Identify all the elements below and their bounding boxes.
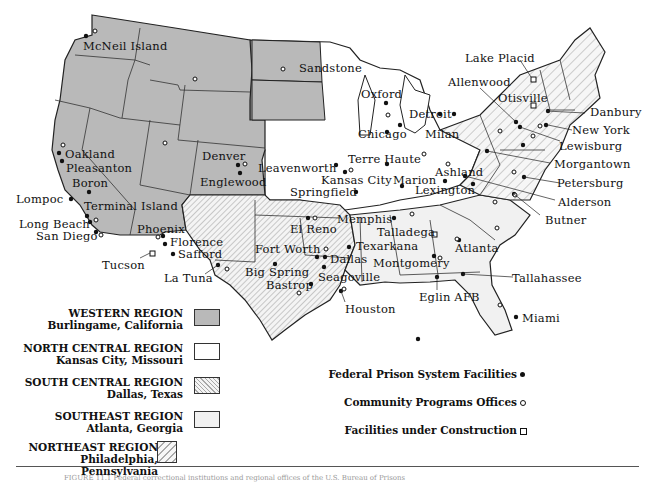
legend-community-programs: Community Programs Offices	[344, 396, 517, 408]
label-new-york: New York	[572, 124, 630, 136]
legend-under-construction: Facilities under Construction	[345, 424, 517, 436]
label-lake-placid: Lake Placid	[465, 52, 535, 64]
label-detroit: Detroit	[409, 108, 452, 120]
swatch-southeast	[194, 411, 220, 428]
label-otisville: Otisville	[498, 92, 548, 104]
figure-caption: FIGURE 11.1 Federal correctional institu…	[64, 474, 405, 482]
swatch-north-central	[194, 343, 220, 360]
legend-southeast-region: SOUTHEAST REGION Atlanta, Georgia	[55, 410, 183, 434]
label-tucson: Tucson	[102, 259, 145, 271]
label-englewood: Englewood	[200, 176, 267, 188]
label-eglin-afb: Eglin AFB	[419, 291, 480, 303]
label-oakland: Oakland	[65, 148, 115, 160]
label-fort-worth: Fort Worth	[255, 243, 321, 255]
label-montgomery: Montgomery	[373, 257, 450, 269]
label-houston: Houston	[345, 303, 396, 315]
swatch-south-central	[194, 377, 220, 394]
label-el-reno: El Reno	[290, 223, 337, 235]
label-atlanta: Atlanta	[455, 242, 499, 254]
label-seagoville: Seagoville	[318, 271, 380, 283]
label-chicago: Chicago	[358, 128, 407, 140]
label-butner: Butner	[545, 214, 586, 226]
open-circle-icon	[520, 400, 526, 406]
label-la-tuna: La Tuna	[164, 272, 213, 284]
label-lompoc: Lompoc	[16, 193, 63, 205]
swatch-western	[194, 309, 220, 326]
label-big-spring: Big Spring	[245, 266, 309, 278]
label-dallas: Dallas	[330, 253, 367, 265]
legend-south-central-region: SOUTH CENTRAL REGION Dallas, Texas	[25, 376, 183, 400]
label-danbury: Danbury	[590, 106, 642, 118]
legend-federal-facilities: Federal Prison System Facilities	[328, 368, 517, 380]
open-square-icon	[520, 428, 527, 435]
label-oxford: Oxford	[361, 88, 402, 100]
label-terre-haute: Terre Haute	[348, 153, 421, 165]
label-lexington: Lexington	[415, 184, 475, 196]
label-allenwood: Allenwood	[448, 76, 511, 88]
label-springfield: Springfield	[290, 186, 357, 198]
label-miami: Miami	[522, 312, 560, 324]
legend-western-region: WESTERN REGION Burlingame, California	[47, 307, 183, 331]
label-ashland: Ashland	[435, 166, 483, 178]
label-safford: Safford	[178, 248, 222, 260]
legend-north-central-region: NORTH CENTRAL REGION Kansas City, Missou…	[23, 342, 183, 366]
label-lewisburg: Lewisburg	[559, 140, 622, 152]
label-alderson: Alderson	[558, 196, 611, 208]
label-sandstone: Sandstone	[299, 62, 362, 74]
label-petersburg: Petersburg	[557, 177, 623, 189]
label-talladega: Talladega	[377, 226, 435, 238]
label-texarkana: Texarkana	[356, 240, 418, 252]
label-terminal-island: Terminal Island	[84, 200, 178, 212]
label-phoenix: Phoenix	[137, 223, 185, 235]
label-pleasanton: Pleasanton	[66, 162, 132, 174]
legend-northeast-region: NORTHEAST REGION Philadelphia, Pennsylva…	[0, 441, 158, 477]
label-denver: Denver	[202, 150, 245, 162]
label-milan: Milan	[425, 128, 459, 140]
divider	[16, 466, 639, 467]
label-tallahassee: Tallahassee	[512, 272, 582, 284]
label-boron: Boron	[72, 177, 108, 189]
label-morgantown: Morgantown	[554, 158, 631, 170]
label-san-diego: San Diego	[36, 230, 98, 242]
filled-circle-icon	[520, 372, 525, 377]
label-memphis: Memphis	[337, 213, 392, 225]
label-bastrop: Bastrop	[266, 279, 313, 291]
swatch-northeast	[157, 441, 177, 463]
label-florence: Florence	[170, 236, 223, 248]
label-mcneil-island: McNeil Island	[83, 40, 167, 52]
